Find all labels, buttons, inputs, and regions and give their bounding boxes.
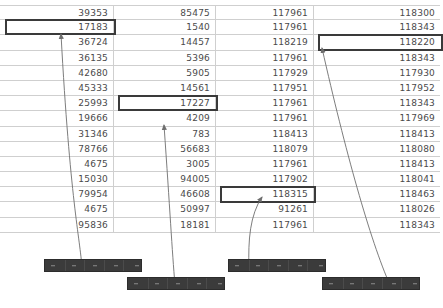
table-cell[interactable]: 4675 (0, 202, 113, 217)
table-cell[interactable]: 117929 (215, 66, 313, 81)
thumbnail-row-marker (72, 265, 76, 267)
thumbnail-row-marker (277, 265, 281, 267)
table-cell[interactable]: 117952 (313, 81, 440, 96)
table-cell[interactable]: 14561 (113, 81, 215, 96)
table-cell[interactable]: 118300 (313, 5, 440, 20)
table-cell[interactable]: 17183 (0, 20, 113, 35)
thumbnail-row-marker (235, 265, 239, 267)
thumbnail-row-marker (392, 283, 396, 285)
table-cell[interactable]: 1540 (113, 20, 215, 35)
thumbnail-row-marker (350, 283, 354, 285)
thumbnail-column-divider (148, 278, 149, 289)
table-cell[interactable]: 117951 (215, 81, 313, 96)
table-cell[interactable]: 117961 (215, 218, 313, 233)
thumbnail-column-divider (343, 278, 344, 289)
table-cell[interactable]: 94005 (113, 172, 215, 187)
column-separator (313, 5, 314, 233)
table-cell[interactable]: 118315 (215, 187, 313, 202)
table-cell[interactable]: 78766 (0, 142, 113, 157)
table-cell[interactable]: 118080 (313, 142, 440, 157)
table-cell[interactable]: 117930 (313, 66, 440, 81)
table-cell[interactable]: 118463 (313, 187, 440, 202)
table-cell[interactable]: 118413 (313, 127, 440, 142)
table-cell[interactable]: 117961 (215, 5, 313, 20)
thumbnail-column-divider (167, 278, 168, 289)
table-cell[interactable]: 118413 (215, 127, 313, 142)
table-cell[interactable]: 36724 (0, 35, 113, 50)
table-cell[interactable]: 117969 (313, 111, 440, 126)
thumbnail-bar-2[interactable] (127, 277, 225, 290)
table-cell[interactable]: 5396 (113, 51, 215, 66)
table-cell[interactable]: 118343 (313, 96, 440, 111)
thumbnail-column-divider (288, 260, 289, 271)
table-cell[interactable]: 18181 (113, 218, 215, 233)
table-cell[interactable]: 118219 (215, 35, 313, 50)
table-cell[interactable]: 91261 (215, 202, 313, 217)
thumbnail-column-divider (362, 278, 363, 289)
thumbnail-column-divider (401, 278, 402, 289)
table-cell[interactable]: 118079 (215, 142, 313, 157)
table-cell[interactable]: 117961 (215, 157, 313, 172)
table-cell[interactable]: 3005 (113, 157, 215, 172)
column-4: 1183001183431182201183431179301179521183… (313, 5, 440, 233)
table-cell[interactable]: 118343 (313, 20, 440, 35)
thumbnail-column-divider (249, 260, 250, 271)
table-cell[interactable]: 31346 (0, 127, 113, 142)
table-cell[interactable]: 117961 (215, 20, 313, 35)
thumbnail-bar-3[interactable] (228, 259, 326, 272)
table-cell[interactable]: 19666 (0, 111, 113, 126)
thumbnail-column-divider (187, 278, 188, 289)
data-table: 3935317183367243613542680453332599319666… (0, 0, 440, 240)
table-cell[interactable]: 15030 (0, 172, 113, 187)
table-cell[interactable]: 56683 (113, 142, 215, 157)
table-cell[interactable]: 783 (113, 127, 215, 142)
thumbnail-column-divider (206, 278, 207, 289)
table-cell[interactable]: 117902 (215, 172, 313, 187)
table-cell[interactable]: 46608 (113, 187, 215, 202)
table-cell[interactable]: 117961 (215, 96, 313, 111)
column-1: 3935317183367243613542680453332599319666… (0, 5, 113, 233)
thumbnail-row-marker (329, 283, 333, 285)
thumbnail-column-divider (65, 260, 66, 271)
table-cell[interactable]: 118343 (313, 218, 440, 233)
column-separator (215, 5, 216, 233)
thumbnail-column-divider (382, 278, 383, 289)
column-separator (113, 5, 114, 233)
table-cell[interactable]: 25993 (0, 96, 113, 111)
thumbnail-row-marker (135, 265, 139, 267)
table-cell[interactable]: 4675 (0, 157, 113, 172)
table-cell[interactable]: 39353 (0, 5, 113, 20)
table-cell[interactable]: 50997 (113, 202, 215, 217)
table-cell[interactable]: 36135 (0, 51, 113, 66)
table-cell[interactable]: 95836 (0, 218, 113, 233)
table-cell[interactable]: 118026 (313, 202, 440, 217)
table-cell[interactable]: 4209 (113, 111, 215, 126)
table-cell[interactable]: 45333 (0, 81, 113, 96)
table-cell[interactable]: 42680 (0, 66, 113, 81)
column-2: 8547515401445753965905145611722742097835… (113, 5, 215, 233)
thumbnail-row-marker (413, 283, 417, 285)
thumbnail-column-divider (84, 260, 85, 271)
table-cell[interactable]: 118413 (313, 157, 440, 172)
thumbnail-bar-4[interactable] (322, 277, 420, 290)
thumbnail-column-divider (268, 260, 269, 271)
thumbnail-column-divider (123, 260, 124, 271)
thumbnail-column-divider (104, 260, 105, 271)
thumbnail-row-marker (298, 265, 302, 267)
table-cell[interactable]: 118220 (313, 35, 440, 50)
table-cell[interactable]: 17227 (113, 96, 215, 111)
table-cell[interactable]: 85475 (113, 5, 215, 20)
table-cell[interactable]: 118343 (313, 51, 440, 66)
table-cell[interactable]: 14457 (113, 35, 215, 50)
table-cell[interactable]: 5905 (113, 66, 215, 81)
table-cell[interactable]: 79954 (0, 187, 113, 202)
thumbnail-bar-1[interactable] (44, 259, 142, 272)
table-cell[interactable]: 118041 (313, 172, 440, 187)
thumbnail-row-marker (319, 265, 323, 267)
thumbnail-column-divider (307, 260, 308, 271)
table-cell[interactable]: 117961 (215, 111, 313, 126)
column-3: 1179611179611182191179611179291179511179… (215, 5, 313, 233)
thumbnail-row-marker (155, 283, 159, 285)
table-cell[interactable]: 117961 (215, 51, 313, 66)
